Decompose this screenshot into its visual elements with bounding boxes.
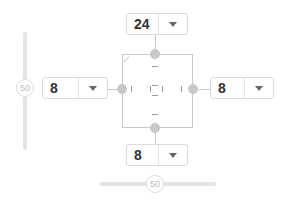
right-margin-dropdown[interactable]: 8 [210, 77, 274, 99]
top-margin-dropdown[interactable]: 24 [126, 13, 188, 35]
chevron-down-icon[interactable] [78, 78, 107, 98]
chevron-down-icon[interactable] [158, 14, 187, 34]
right-spring-icon [162, 86, 182, 92]
top-margin-value: 24 [127, 14, 158, 34]
right-handle[interactable] [188, 84, 198, 94]
vertical-slider-knob[interactable]: 50 [16, 79, 34, 97]
left-margin-dropdown[interactable]: 8 [42, 77, 108, 99]
chevron-down-icon[interactable] [158, 145, 187, 165]
bottom-spring-icon [152, 95, 158, 115]
bottom-margin-value: 8 [127, 145, 158, 165]
left-handle[interactable] [117, 84, 127, 94]
horizontal-slider-knob[interactable]: 50 [146, 175, 164, 193]
left-spring-icon [131, 86, 151, 92]
top-spring-icon [152, 66, 158, 86]
chevron-down-icon[interactable] [244, 78, 273, 98]
left-margin-value: 8 [43, 78, 78, 98]
bottom-margin-dropdown[interactable]: 8 [126, 144, 188, 166]
bottom-handle[interactable] [150, 123, 160, 133]
right-connector-line [196, 89, 210, 90]
right-margin-value: 8 [211, 78, 244, 98]
top-handle[interactable] [150, 49, 160, 59]
